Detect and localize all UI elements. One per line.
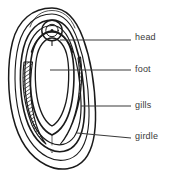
leader-line-girdle: [77, 133, 131, 138]
leader-lines: [50, 40, 131, 138]
label-head: head: [135, 32, 156, 42]
mouth-dot: [51, 29, 54, 32]
label-foot: foot: [135, 64, 151, 74]
label-girdle: girdle: [135, 131, 158, 141]
label-gills: gills: [135, 100, 152, 110]
illustration-strokes: [9, 8, 96, 169]
foot-oval: [35, 38, 68, 126]
foot-outer-boundary: [30, 31, 74, 135]
chiton-anatomy-illustration: [0, 0, 174, 182]
diagram-canvas: head foot gills girdle: [0, 0, 174, 182]
